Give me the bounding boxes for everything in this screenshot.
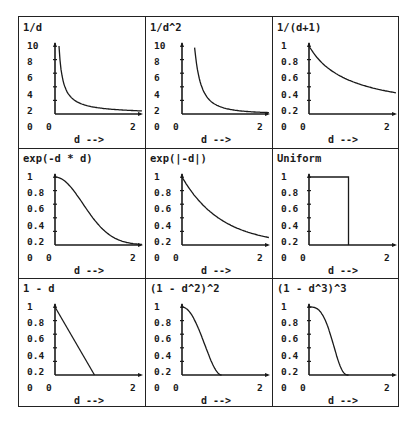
y-tick-label: 2 — [27, 106, 33, 116]
plot-cell: (1 - d^2)^210.80.60.40.2002d --> — [146, 278, 273, 408]
y-tick-label: 1 — [27, 302, 33, 312]
plot-cell: 1/d108642002d --> — [19, 17, 146, 147]
y-tick-label: 2 — [154, 106, 160, 116]
y-tick-label: 0.6 — [154, 334, 171, 344]
y-tick-label: 8 — [27, 57, 33, 67]
y-tick-label: 8 — [154, 57, 160, 67]
x-tick-label: 0 — [300, 253, 306, 263]
x-tick-label: 2 — [257, 383, 263, 393]
y-tick-label: 0.2 — [281, 367, 298, 377]
y-tick-label: 0.6 — [154, 204, 171, 214]
y-tick-label: 0.4 — [281, 90, 298, 100]
y-tick-label: 0.2 — [154, 367, 171, 377]
y-tick-label: 0.6 — [281, 334, 298, 344]
plot-title: (1 - d^3)^3 — [277, 282, 347, 294]
x-tick-label: 2 — [384, 253, 390, 263]
plot-grid: 1/d108642002d -->1/d^2108642002d -->1/(d… — [18, 16, 399, 407]
plot-cell: 1/(d+1)10.80.60.40.2002d --> — [273, 17, 400, 147]
y-tick-label: 0.2 — [154, 237, 171, 247]
x-tick-label: 0 — [173, 122, 179, 132]
x-axis-label: d --> — [328, 265, 358, 276]
y-tick-label: 0 — [281, 253, 287, 263]
x-axis-label: d --> — [328, 134, 358, 145]
y-tick-label: 0.2 — [27, 237, 44, 247]
y-tick-label: 0.8 — [154, 188, 171, 198]
x-tick-label: 0 — [300, 122, 306, 132]
plot-cell: (1 - d^3)^310.80.60.40.2002d --> — [273, 278, 400, 408]
x-axis-label: d --> — [74, 265, 104, 276]
y-tick-label: 0.4 — [281, 221, 298, 231]
plot-title: exp(-d * d) — [23, 152, 93, 164]
data-curve — [59, 46, 142, 111]
y-tick-label: 6 — [154, 73, 160, 83]
y-tick-label: 0.8 — [281, 57, 298, 67]
y-tick-label: 0.4 — [281, 351, 298, 361]
plot-title: 1/d^2 — [150, 21, 182, 33]
y-tick-label: 0.6 — [281, 204, 298, 214]
x-tick-label: 0 — [300, 383, 306, 393]
y-tick-label: 0.4 — [27, 221, 44, 231]
y-tick-label: 0.8 — [27, 188, 44, 198]
y-tick-label: 1 — [154, 172, 160, 182]
x-axis-label: d --> — [74, 395, 104, 406]
y-tick-label: 0 — [154, 253, 160, 263]
y-tick-label: 6 — [27, 73, 33, 83]
y-tick-label: 0 — [281, 383, 287, 393]
y-tick-label: 0.8 — [27, 318, 44, 328]
x-tick-label: 2 — [130, 253, 136, 263]
y-tick-label: 0.8 — [281, 188, 298, 198]
y-tick-label: 0 — [154, 383, 160, 393]
plot-title: (1 - d^2)^2 — [150, 282, 220, 294]
x-tick-label: 0 — [173, 383, 179, 393]
data-curve — [55, 177, 142, 245]
y-tick-label: 1 — [27, 172, 33, 182]
x-tick-label: 2 — [384, 122, 390, 132]
x-axis-label: d --> — [74, 134, 104, 145]
data-curve — [195, 48, 269, 113]
plot-area — [19, 17, 146, 147]
x-tick-label: 0 — [173, 253, 179, 263]
plot-title: exp(|-d|) — [150, 152, 207, 164]
y-tick-label: 0.8 — [281, 318, 298, 328]
x-axis-label: d --> — [328, 395, 358, 406]
x-tick-label: 2 — [130, 122, 136, 132]
plot-cell: 1 - d10.80.60.40.2002d --> — [19, 278, 146, 408]
y-tick-label: 1 — [154, 302, 160, 312]
data-curve — [309, 177, 349, 245]
x-tick-label: 2 — [384, 383, 390, 393]
y-tick-label: 0 — [281, 122, 287, 132]
y-tick-label: 0.2 — [281, 106, 298, 116]
x-tick-label: 0 — [46, 253, 52, 263]
y-tick-label: 0.6 — [27, 334, 44, 344]
y-tick-label: 0.2 — [27, 367, 44, 377]
y-tick-label: 0.8 — [154, 318, 171, 328]
plot-area — [146, 17, 273, 147]
y-tick-label: 1 — [281, 41, 287, 51]
data-curve — [182, 177, 269, 238]
y-tick-label: 0.4 — [154, 221, 171, 231]
plot-title: 1 - d — [23, 282, 55, 294]
y-tick-label: 0 — [27, 253, 33, 263]
y-tick-label: 0.2 — [281, 237, 298, 247]
plot-title: 1/(d+1) — [277, 21, 321, 33]
x-tick-label: 0 — [46, 383, 52, 393]
plot-cell: exp(|-d|)10.80.60.40.2002d --> — [146, 148, 273, 278]
y-tick-label: 10 — [154, 41, 165, 51]
y-tick-label: 4 — [27, 90, 33, 100]
x-axis-label: d --> — [201, 265, 231, 276]
y-tick-label: 0.6 — [27, 204, 44, 214]
plot-title: 1/d — [23, 21, 42, 33]
x-tick-label: 2 — [257, 253, 263, 263]
y-tick-label: 1 — [281, 172, 287, 182]
x-tick-label: 2 — [130, 383, 136, 393]
y-tick-label: 0.4 — [154, 351, 171, 361]
y-tick-label: 0 — [27, 122, 33, 132]
y-tick-label: 0.4 — [27, 351, 44, 361]
plot-cell: 1/d^2108642002d --> — [146, 17, 273, 147]
data-curve — [309, 46, 396, 93]
data-curve — [182, 307, 222, 375]
y-tick-label: 0 — [27, 383, 33, 393]
x-axis-label: d --> — [201, 395, 231, 406]
x-tick-label: 2 — [257, 122, 263, 132]
y-tick-label: 0.6 — [281, 73, 298, 83]
